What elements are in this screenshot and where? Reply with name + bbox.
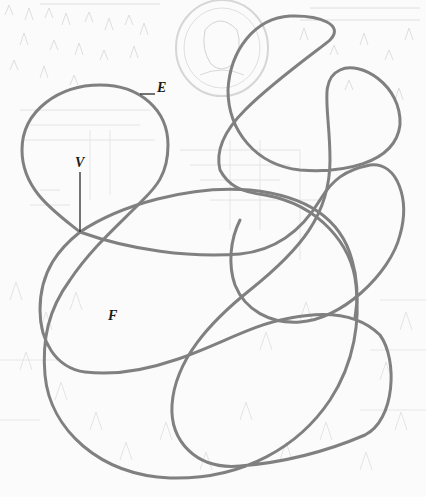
face-label: F	[108, 309, 117, 323]
closed-curve-diagram	[0, 0, 426, 497]
closed-curve	[22, 16, 400, 478]
edge-label: E	[157, 81, 166, 95]
vertex-label: V	[75, 156, 84, 170]
diagram-canvas: V E F	[0, 0, 426, 497]
closed-curve-lobe	[80, 165, 403, 322]
